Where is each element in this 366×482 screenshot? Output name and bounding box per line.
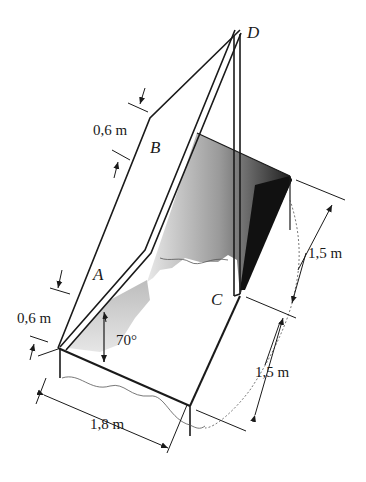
point-label-d: D: [246, 23, 260, 42]
dim-upper-depth: 1,5 m: [308, 245, 343, 261]
point-label-c: C: [211, 290, 223, 309]
dim-top-offset: 0,6 m: [93, 122, 128, 138]
dim-width: 1,8 m: [90, 416, 125, 432]
diagram-canvas: D B A C 0,6 m 0,6 m 70° 1,5 m 1,5 m 1,8 …: [0, 0, 366, 482]
point-label-b: B: [150, 138, 161, 157]
dim-lower-depth: 1,5 m: [255, 364, 290, 380]
point-label-a: A: [92, 265, 104, 284]
dim-bottom-offset: 0,6 m: [17, 310, 52, 326]
dimension-lines: [30, 88, 345, 453]
dim-angle: 70°: [116, 332, 137, 348]
